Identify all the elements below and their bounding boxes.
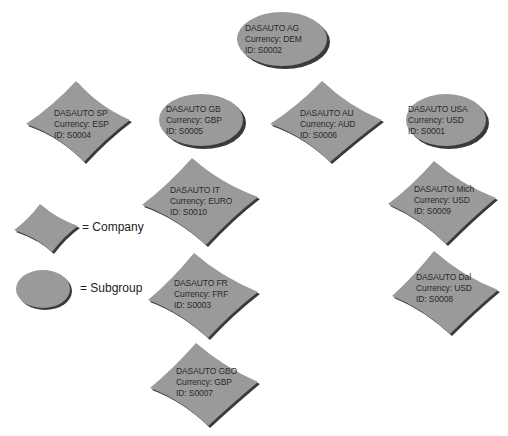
node-currency: Currency: GBP bbox=[166, 115, 222, 126]
node-currency: Currency: AUD bbox=[300, 119, 355, 130]
legend-company: = Company bbox=[10, 200, 160, 256]
node-id: ID: S0005 bbox=[166, 126, 222, 137]
subgroup-ellipse-icon bbox=[16, 268, 76, 312]
node-dasauto-gb[interactable]: DASAUTO GB Currency: GBP ID: S0005 bbox=[158, 92, 250, 152]
node-currency: Currency: ESP bbox=[54, 119, 109, 130]
node-dasauto-dal[interactable]: DASAUTO Dal Currency: USD ID: S0008 bbox=[390, 248, 508, 338]
node-dasauto-au[interactable]: DASAUTO AU Currency: AUD ID: S0006 bbox=[266, 78, 390, 164]
company-diamond-icon bbox=[10, 200, 80, 256]
node-name: DASAUTO IT bbox=[170, 185, 232, 196]
node-dasauto-gbo[interactable]: DASAUTO GBO Currency: GBP ID: S0007 bbox=[148, 340, 270, 428]
node-id: ID: S0002 bbox=[245, 45, 302, 56]
node-dasauto-ag[interactable]: DASAUTO AG Currency: DEM ID: S0002 bbox=[233, 9, 333, 71]
node-id: ID: S0001 bbox=[408, 126, 468, 137]
node-id: ID: S0010 bbox=[170, 207, 232, 218]
node-name: DASAUTO AG bbox=[245, 23, 302, 34]
node-name: DASAUTO GBO bbox=[176, 366, 237, 377]
node-name: DASAUTO Mich bbox=[414, 184, 474, 195]
node-dasauto-usa[interactable]: DASAUTO USA Currency: USD ID: S0001 bbox=[404, 92, 496, 152]
node-currency: Currency: USD bbox=[408, 115, 468, 126]
node-dasauto-mich[interactable]: DASAUTO Mich Currency: USD ID: S0009 bbox=[386, 158, 508, 246]
node-name: DASAUTO SP bbox=[54, 108, 109, 119]
node-id: ID: S0009 bbox=[414, 206, 474, 217]
node-id: ID: S0007 bbox=[176, 388, 237, 399]
legend-company-label: = Company bbox=[82, 220, 144, 234]
node-dasauto-fr[interactable]: DASAUTO FR Currency: FRF ID: S0003 bbox=[144, 250, 268, 342]
node-name: DASAUTO Dal bbox=[416, 272, 472, 283]
node-currency: Currency: GBP bbox=[176, 377, 237, 388]
node-id: ID: S0003 bbox=[174, 300, 228, 311]
node-currency: Currency: EURO bbox=[170, 196, 232, 207]
node-id: ID: S0004 bbox=[54, 130, 109, 141]
node-name: DASAUTO AU bbox=[300, 108, 355, 119]
legend-subgroup: = Subgroup bbox=[16, 268, 156, 312]
node-name: DASAUTO USA bbox=[408, 104, 468, 115]
node-id: ID: S0008 bbox=[416, 294, 472, 305]
node-id: ID: S0006 bbox=[300, 130, 355, 141]
node-currency: Currency: USD bbox=[414, 195, 474, 206]
node-dasauto-sp[interactable]: DASAUTO SP Currency: ESP ID: S0004 bbox=[18, 78, 138, 164]
node-name: DASAUTO FR bbox=[174, 278, 228, 289]
node-currency: Currency: USD bbox=[416, 283, 472, 294]
legend-subgroup-label: = Subgroup bbox=[80, 281, 142, 295]
node-currency: Currency: FRF bbox=[174, 289, 228, 300]
node-currency: Currency: DEM bbox=[245, 34, 302, 45]
node-name: DASAUTO GB bbox=[166, 104, 222, 115]
